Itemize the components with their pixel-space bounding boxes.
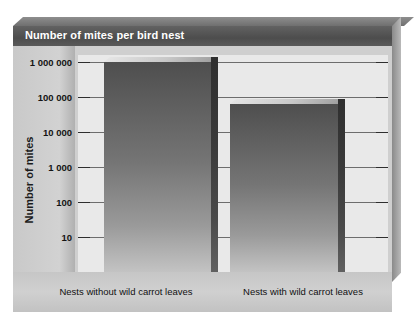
y-tick-label-1000000: 1 000 000 (14, 57, 72, 68)
y-tick-label-1000: 1 000 (14, 162, 72, 173)
tick-left-100000 (78, 97, 90, 98)
tick-left-1000 (78, 167, 90, 168)
tick-left-10000 (78, 132, 90, 133)
frame-top-bevel (13, 17, 414, 26)
tick-left-10 (78, 237, 90, 238)
frame-right-bevel (392, 17, 401, 282)
y-tick-label-100000: 100 000 (14, 92, 72, 103)
plot-area (78, 55, 388, 272)
category-label-with: Nests with wild carrot leaves (218, 286, 388, 297)
y-tick-label-10: 10 (14, 232, 72, 243)
bar-nests-without-wild-carrot-leaves (104, 62, 211, 272)
chart-title-bar: Number of mites per bird nest (13, 26, 392, 46)
bar-side-face-2 (338, 99, 345, 272)
category-axis-plinth: Nests without wild carrot leaves Nests w… (13, 272, 392, 312)
y-axis-title: Number of mites (23, 125, 35, 235)
y-tick-label-100: 100 (14, 197, 72, 208)
tick-right-1000000 (376, 62, 388, 63)
tick-right-100000 (376, 97, 388, 98)
tick-right-1000 (376, 167, 388, 168)
bar-nests-with-wild-carrot-leaves (230, 104, 338, 272)
chart-title: Number of mites per bird nest (25, 29, 184, 41)
chart-figure: Number of mites per bird nest Number of … (0, 0, 414, 329)
tick-right-100 (376, 202, 388, 203)
tick-left-100 (78, 202, 90, 203)
tick-right-10000 (376, 132, 388, 133)
bar-side-face-1 (211, 57, 218, 272)
tick-left-1000000 (78, 62, 90, 63)
tick-right-10 (376, 237, 388, 238)
y-axis-band: Number of mites 1 000 000 100 000 10 000… (13, 46, 75, 282)
category-label-without: Nests without wild carrot leaves (31, 286, 221, 297)
y-tick-label-10000: 10 000 (14, 127, 72, 138)
